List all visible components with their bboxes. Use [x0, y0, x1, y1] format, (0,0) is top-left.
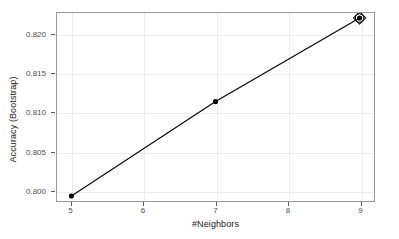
x-tick-label: 6: [141, 206, 145, 215]
data-point-marker: [69, 193, 74, 198]
x-axis-tick-labels: 56789: [0, 206, 399, 220]
series-line: [71, 18, 359, 196]
y-tick-label: 0.820: [20, 30, 46, 39]
y-tick-label: 0.805: [20, 147, 46, 156]
y-tick-label: 0.815: [20, 69, 46, 78]
x-tick-mark: [71, 202, 72, 206]
x-tick-mark: [216, 202, 217, 206]
data-series-layer: [57, 13, 374, 201]
chart-container: Accuracy (Bootstrap) #Neighbors 0.8000.8…: [0, 0, 399, 239]
data-point-marker: [213, 99, 218, 104]
x-tick-mark: [288, 202, 289, 206]
y-tick-label: 0.810: [20, 108, 46, 117]
y-tick-label: 0.800: [20, 186, 46, 195]
x-tick-label: 7: [213, 206, 217, 215]
y-tick-mark: [51, 191, 55, 192]
x-tick-label: 9: [358, 206, 362, 215]
plot-panel: [56, 12, 375, 202]
y-axis-title: Accuracy (Bootstrap): [5, 0, 21, 239]
x-tick-mark: [143, 202, 144, 206]
data-point-marker: [357, 15, 362, 20]
y-tick-mark: [51, 112, 55, 113]
x-tick-mark: [361, 202, 362, 206]
y-tick-mark: [51, 34, 55, 35]
series-points: [69, 15, 362, 198]
y-tick-mark: [51, 152, 55, 153]
y-axis-tick-labels: 0.8000.8050.8100.8150.820: [20, 0, 46, 239]
x-axis-title: #Neighbors: [56, 219, 375, 229]
y-tick-mark: [51, 73, 55, 74]
x-tick-label: 5: [68, 206, 72, 215]
x-tick-label: 8: [286, 206, 290, 215]
